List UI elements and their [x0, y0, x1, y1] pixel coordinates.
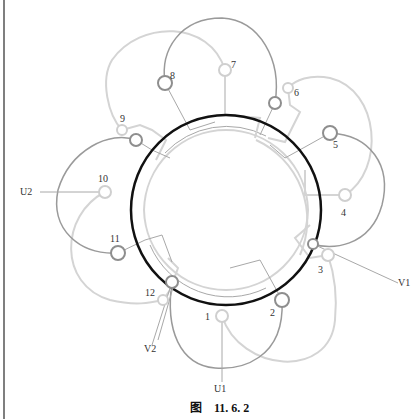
terminal-3	[322, 249, 334, 261]
label-u1: U1	[214, 383, 226, 394]
terminal-2	[275, 293, 289, 307]
stator-winding-diagram: 1 2 3 4 5 6 7 8 9 10 11 12 U1 U2 V1 V2 图…	[0, 0, 412, 419]
external-leads	[40, 192, 398, 382]
inner-winding-arcs	[144, 126, 308, 296]
terminal-12	[158, 295, 168, 305]
label-3: 3	[318, 264, 323, 275]
terminal-11	[111, 246, 125, 260]
terminal-10	[99, 186, 111, 198]
label-v1: V1	[398, 277, 410, 288]
label-6: 6	[294, 87, 299, 98]
figure-caption: 图 11. 6. 2	[190, 401, 249, 415]
terminal-6	[283, 83, 293, 93]
caption-number: 11. 6. 2	[214, 401, 249, 415]
label-u2: U2	[20, 186, 32, 197]
stator-circle	[131, 115, 321, 305]
terminal-3-lead	[308, 239, 318, 249]
label-7: 7	[231, 59, 236, 70]
label-11: 11	[110, 233, 120, 244]
terminal-12-lead	[166, 276, 178, 288]
label-1: 1	[205, 311, 210, 322]
terminal-9	[117, 125, 127, 135]
label-v2: V2	[144, 343, 156, 354]
label-9: 9	[120, 113, 125, 124]
terminal-leads	[118, 70, 345, 300]
terminal-6-lead	[269, 97, 281, 109]
label-12: 12	[145, 287, 155, 298]
terminal-5	[323, 126, 337, 140]
label-10: 10	[98, 173, 108, 184]
label-2: 2	[270, 307, 275, 318]
terminal-labels: 1 2 3 4 5 6 7 8 9 10 11 12	[98, 59, 346, 322]
terminal-4	[339, 189, 351, 201]
label-4: 4	[341, 207, 346, 218]
terminal-1	[216, 310, 228, 322]
terminal-9-lead	[130, 134, 142, 146]
label-5: 5	[333, 139, 338, 150]
caption-prefix: 图	[190, 401, 202, 415]
terminal-7	[219, 64, 231, 76]
label-8: 8	[170, 70, 175, 81]
